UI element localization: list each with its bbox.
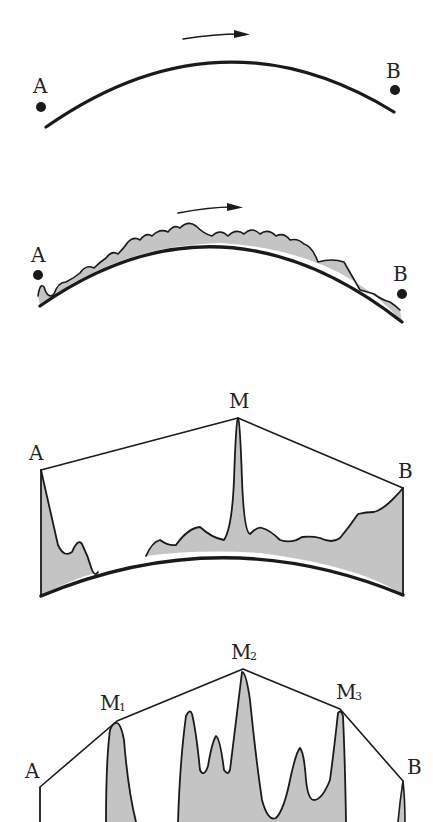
label-a: A: [30, 243, 46, 267]
label-m2-subscript: 2: [250, 650, 257, 663]
diagram-canvas: A B A B A M B: [0, 0, 433, 822]
label-m3-subscript: 3: [355, 690, 362, 703]
shaded-profile: [38, 223, 402, 322]
arc-curve: [40, 247, 402, 322]
direction-arrow-shaft: [178, 207, 232, 213]
shaded-peak-m1: [106, 723, 136, 822]
point-a-dot: [33, 270, 43, 280]
label-b: B: [398, 459, 413, 483]
label-m1-subscript: 1: [119, 701, 126, 714]
direction-arrow-icon: [227, 203, 243, 211]
label-m: M: [229, 389, 249, 413]
panel-1: A B: [32, 30, 401, 127]
label-a: A: [32, 74, 48, 98]
panel-4: A M 1 M 2 M 3 B: [24, 640, 422, 822]
panel-3: A M B: [28, 389, 413, 596]
shaded-profile-right: [146, 418, 403, 595]
arc-curve: [46, 62, 394, 127]
label-m1: M: [100, 691, 120, 715]
label-b: B: [407, 755, 422, 779]
point-b-dot: [390, 85, 400, 95]
point-a-dot: [36, 102, 46, 112]
label-a: A: [28, 441, 44, 465]
panel-2: A B: [30, 203, 408, 322]
direction-arrow-icon: [234, 30, 250, 38]
label-b: B: [386, 59, 401, 83]
label-m3: M: [336, 680, 356, 704]
direction-arrow-shaft: [183, 34, 240, 39]
label-a: A: [24, 759, 40, 783]
hull-line: [41, 418, 403, 488]
label-m2: M: [231, 640, 251, 664]
point-b-dot: [397, 289, 407, 299]
label-b: B: [393, 262, 408, 286]
